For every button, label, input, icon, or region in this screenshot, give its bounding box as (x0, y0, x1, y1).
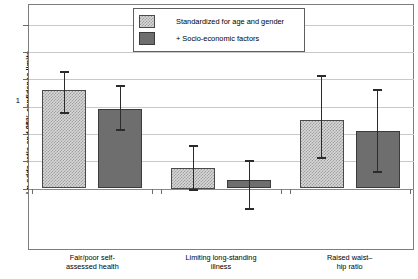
y-axis-tick: 1 (23, 52, 29, 53)
legend-item-standardized: Standardized for age and gender (139, 13, 299, 30)
legend-swatch-dark-icon (139, 32, 155, 45)
x-axis-category-label-line: Fair/poor self- (28, 253, 157, 262)
x-axis-tick (152, 189, 153, 194)
error-bar-cap-upper (116, 85, 125, 87)
y-axis-tick-label: 1 (16, 95, 20, 104)
x-axis-tick (281, 189, 282, 194)
x-axis-tick (410, 189, 411, 194)
legend-swatch-light-icon (139, 15, 155, 28)
y-axis-tick (23, 25, 29, 26)
legend-item-label: + Socio-economic factors (176, 34, 259, 43)
x-axis-labels: Fair/poor self-assessed healthLimiting l… (28, 253, 414, 279)
y-axis-tick (23, 134, 29, 135)
y-axis-tick: 0 (23, 189, 29, 190)
x-axis-category-label-line: Raised waist– (285, 253, 414, 262)
zero-axis-line (28, 189, 414, 190)
bar-chart: Ln odds ratio and 95% confidence limits … (0, 0, 418, 279)
error-bar-cap-upper (317, 75, 326, 77)
error-bar-cap-upper (189, 145, 198, 147)
legend-item-socioeconomic: + Socio-economic factors (139, 30, 299, 47)
error-bar-cap-lower (373, 171, 382, 173)
gridline (28, 79, 414, 80)
error-bar-line (64, 72, 65, 113)
x-axis-category-label-line: Limiting long-standing (157, 253, 286, 262)
error-bar-cap-lower (116, 129, 125, 131)
error-bar-line (377, 90, 378, 172)
x-axis-category-label-line: assessed health (28, 262, 157, 271)
error-bar-cap-upper (60, 71, 69, 73)
x-axis-category-label: Limiting long-standingillness (157, 253, 286, 272)
error-bar-cap-lower (317, 157, 326, 159)
error-bar-cap-upper (373, 89, 382, 91)
y-axis-tick (23, 79, 29, 80)
x-axis-category-label: Fair/poor self-assessed health (28, 253, 157, 272)
x-axis-category-label-line: hip ratio (285, 262, 414, 271)
chart-legend: Standardized for age and gender + Socio-… (133, 8, 305, 52)
error-bar-cap-lower (60, 112, 69, 114)
error-bar-line (321, 76, 322, 158)
x-axis-category-label-line: illness (157, 262, 286, 271)
x-axis-tick (32, 189, 33, 194)
error-bar-line (120, 86, 121, 130)
legend-item-label: Standardized for age and gender (176, 17, 284, 26)
y-axis-tick (23, 161, 29, 162)
x-axis-tick (290, 189, 291, 194)
error-bar-line (193, 146, 194, 190)
x-axis-tick (161, 189, 162, 194)
x-axis-category-label: Raised waist–hip ratio (285, 253, 414, 272)
error-bar-cap-upper (245, 160, 254, 162)
error-bar-line (249, 161, 250, 209)
y-axis-tick (23, 107, 29, 108)
error-bar-cap-lower (189, 189, 198, 191)
error-bar-cap-lower (245, 208, 254, 210)
